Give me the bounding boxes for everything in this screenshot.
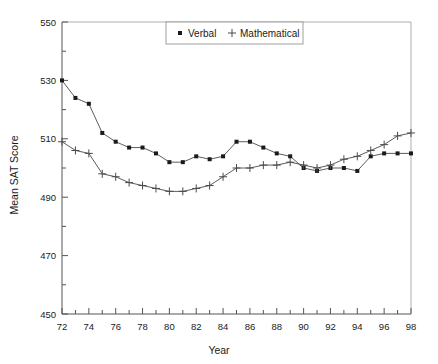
- data-point-marker: [181, 160, 185, 164]
- x-tick-label: 74: [84, 321, 95, 332]
- legend-label-mathematical: Mathematical: [240, 28, 299, 39]
- data-point-marker: [342, 166, 346, 170]
- data-point-marker: [192, 184, 200, 192]
- y-tick-label: 450: [40, 309, 56, 320]
- data-point-marker: [369, 154, 373, 158]
- x-axis-tick-labels: 7274767880828486889092949698: [57, 321, 417, 332]
- data-point-marker: [60, 78, 64, 82]
- x-tick-label: 96: [379, 321, 390, 332]
- data-point-marker: [273, 161, 281, 169]
- data-point-marker: [409, 151, 413, 155]
- data-point-marker: [340, 155, 348, 163]
- x-tick-label: 98: [406, 321, 417, 332]
- y-axis-title: Mean SAT Score: [8, 135, 20, 214]
- data-point-marker: [355, 169, 359, 173]
- data-point-marker: [259, 161, 267, 169]
- data-point-marker: [208, 157, 212, 161]
- data-point-marker: [275, 151, 279, 155]
- data-point-marker: [206, 182, 214, 190]
- y-tick-label: 470: [40, 250, 56, 261]
- x-tick-label: 84: [218, 321, 229, 332]
- data-point-marker: [179, 187, 187, 195]
- x-tick-label: 86: [245, 321, 256, 332]
- x-tick-label: 80: [164, 321, 175, 332]
- data-point-marker: [100, 131, 104, 135]
- data-point-marker: [114, 140, 118, 144]
- data-point-marker: [87, 102, 91, 106]
- data-point-marker: [167, 160, 171, 164]
- data-point-marker: [367, 146, 375, 154]
- data-point-marker: [380, 141, 388, 149]
- data-point-marker: [152, 184, 160, 192]
- data-point-marker: [127, 146, 131, 150]
- data-point-marker: [288, 154, 292, 158]
- data-point-marker: [286, 158, 294, 166]
- legend-label-verbal: Verbal: [188, 28, 216, 39]
- series-verbal: [60, 78, 413, 173]
- data-point-marker: [73, 96, 77, 100]
- data-point-marker: [71, 146, 79, 154]
- data-point-marker: [246, 164, 254, 172]
- data-point-marker: [233, 164, 241, 172]
- x-tick-label: 94: [352, 321, 363, 332]
- x-tick-label: 88: [271, 321, 282, 332]
- data-point-marker: [219, 173, 227, 181]
- x-tick-label: 78: [137, 321, 148, 332]
- x-tick-label: 92: [325, 321, 336, 332]
- x-tick-label: 82: [191, 321, 202, 332]
- data-point-marker: [407, 129, 415, 137]
- data-point-marker: [261, 146, 265, 150]
- data-point-marker: [235, 140, 239, 144]
- data-point-marker: [165, 187, 173, 195]
- y-tick-label: 530: [40, 75, 56, 86]
- x-axis-title: Year: [208, 344, 230, 356]
- series-line-verbal: [62, 80, 411, 171]
- y-axis-tick-labels: 450470490510530550: [40, 17, 56, 320]
- data-point-marker: [112, 173, 120, 181]
- data-point-marker: [396, 151, 400, 155]
- chart-series-group: [58, 78, 415, 195]
- data-point-marker: [98, 170, 106, 178]
- data-point-marker: [194, 154, 198, 158]
- data-point-marker: [139, 182, 147, 190]
- y-tick-label: 510: [40, 133, 56, 144]
- data-point-marker: [353, 152, 361, 160]
- y-tick-label: 550: [40, 17, 56, 28]
- chart-canvas: 7274767880828486889092949698 45047049051…: [0, 0, 438, 364]
- data-point-marker: [248, 140, 252, 144]
- y-tick-label: 490: [40, 192, 56, 203]
- data-point-marker: [394, 132, 402, 140]
- x-tick-label: 90: [298, 321, 309, 332]
- data-point-marker: [221, 154, 225, 158]
- data-point-marker: [300, 161, 308, 169]
- chart-legend: VerbalMathematical: [166, 22, 303, 44]
- data-point-marker: [382, 151, 386, 155]
- data-point-marker: [313, 164, 321, 172]
- data-point-marker: [154, 151, 158, 155]
- sat-score-line-chart: 7274767880828486889092949698 45047049051…: [0, 0, 438, 364]
- data-point-marker: [85, 149, 93, 157]
- legend-marker-verbal: [178, 31, 182, 35]
- x-tick-label: 76: [110, 321, 121, 332]
- x-tick-label: 72: [57, 321, 68, 332]
- data-point-marker: [125, 179, 133, 187]
- data-point-marker: [141, 146, 145, 150]
